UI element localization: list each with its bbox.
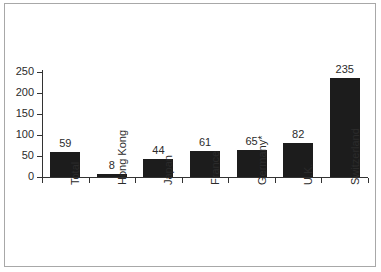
- x-axis-category-label: Germany*: [257, 135, 268, 185]
- y-axis-tick-label: 0: [0, 171, 34, 182]
- y-axis-tick-label: 150: [0, 108, 34, 119]
- x-axis-category-label: France: [210, 151, 221, 185]
- y-axis-tick-label: 50: [0, 150, 34, 161]
- x-axis-tick: [275, 178, 276, 183]
- y-axis-tick: [37, 156, 42, 157]
- x-axis-tick: [182, 178, 183, 183]
- x-axis-category-label: Hong Kong: [117, 130, 128, 185]
- x-axis-tick: [135, 178, 136, 183]
- bar-value-label: 8: [82, 160, 142, 171]
- x-axis-tick: [368, 178, 369, 183]
- bar-value-label: 59: [35, 138, 95, 149]
- y-axis-line: [42, 70, 43, 178]
- x-axis-tick: [89, 178, 90, 183]
- y-axis-tick: [37, 135, 42, 136]
- y-axis-tick: [37, 72, 42, 73]
- bar-value-label: 235: [315, 64, 375, 75]
- x-axis-line: [42, 177, 368, 178]
- x-axis-category-label: Switzerland: [350, 128, 361, 185]
- y-axis-tick: [37, 114, 42, 115]
- x-axis-category-label: U.K.: [303, 164, 314, 185]
- x-axis-category-label: Japan: [163, 155, 174, 185]
- x-axis-tick: [42, 178, 43, 183]
- y-axis-tick-label: 250: [0, 66, 34, 77]
- x-axis-tick: [228, 178, 229, 183]
- bar-chart-figure: 050100150200250 59844616582235 TotalHong…: [0, 0, 381, 272]
- y-axis-tick-label: 200: [0, 87, 34, 98]
- y-axis-tick-label: 100: [0, 129, 34, 140]
- x-axis-category-label: Total: [70, 162, 81, 185]
- bar-value-label: 82: [268, 129, 328, 140]
- x-axis-tick: [321, 178, 322, 183]
- y-axis-tick: [37, 93, 42, 94]
